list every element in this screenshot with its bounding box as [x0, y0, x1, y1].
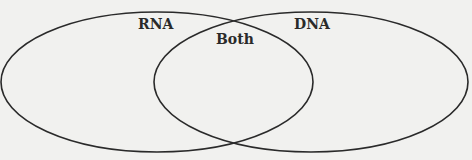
rna-label: RNA	[138, 17, 173, 31]
dna-ellipse	[154, 12, 468, 152]
rna-ellipse	[1, 12, 313, 152]
both-label: Both	[216, 32, 254, 46]
venn-ellipses	[0, 0, 472, 160]
venn-diagram: RNA Both DNA	[0, 0, 472, 160]
dna-label: DNA	[294, 17, 330, 31]
